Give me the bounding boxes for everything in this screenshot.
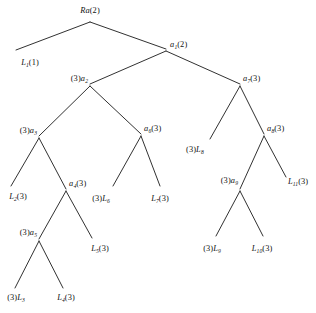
- tree-node-label-L3: (3)L3: [7, 294, 25, 302]
- tree-edge: [141, 136, 160, 186]
- tree-node-label-a6: a6(3): [144, 125, 161, 133]
- tree-node-label-L6: (3)L6: [92, 195, 110, 203]
- tree-node-label-a5: (3)a5: [20, 229, 37, 237]
- tree-node-label-L8: (3)L8: [186, 146, 204, 154]
- tree-edge: [66, 191, 92, 238]
- tree-edge: [39, 241, 63, 288]
- tree-node-label-L1: L1(1): [21, 59, 39, 67]
- tree-node-label-a3: (3)a3: [20, 127, 37, 135]
- binary-tree-figure: Ra(2)L1(1)a1(2)(3)a2a7(3)(3)a3a6(3)(3)L8…: [0, 0, 316, 313]
- tree-edge: [240, 86, 264, 134]
- tree-node-label-L10: L10(3): [252, 245, 273, 253]
- tree-node-label-root: Ra(2): [80, 7, 100, 15]
- tree-edge: [240, 136, 264, 189]
- tree-edge: [39, 138, 66, 189]
- tree-edge: [15, 241, 39, 288]
- tree-edge: [264, 136, 286, 177]
- tree-node-label-L5: L5(3): [91, 245, 109, 253]
- tree-edge: [166, 51, 240, 84]
- tree-edge: [240, 191, 263, 236]
- tree-node-label-L2: L2(3): [9, 193, 27, 201]
- tree-edge: [11, 138, 39, 186]
- tree-node-label-a8: a8(3): [267, 125, 284, 133]
- tree-edge: [90, 22, 166, 49]
- tree-node-label-a7: a7(3): [243, 75, 260, 83]
- tree-edge: [216, 191, 240, 236]
- tree-edges-layer: [0, 0, 316, 313]
- tree-edge: [90, 51, 166, 84]
- tree-node-label-a2: (3)a2: [71, 75, 88, 83]
- tree-edge: [39, 86, 90, 136]
- tree-edge: [210, 86, 240, 139]
- tree-node-label-a4: a4(3): [69, 180, 86, 188]
- tree-node-label-a9: (3)a9: [221, 177, 238, 185]
- tree-node-label-L11: L11(3): [288, 178, 308, 186]
- tree-node-label-L9: (3)L9: [203, 245, 221, 253]
- tree-node-label-a1: a1(2): [170, 41, 187, 49]
- tree-node-label-L7: L7(3): [151, 195, 169, 203]
- tree-edge: [39, 191, 66, 239]
- tree-edge: [90, 86, 141, 134]
- tree-edge: [16, 22, 90, 50]
- tree-edge: [113, 136, 141, 186]
- tree-node-label-L4: L4(3): [57, 294, 75, 302]
